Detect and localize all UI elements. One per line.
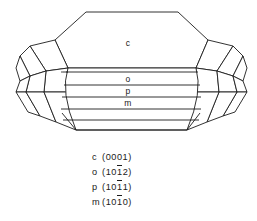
right-facet-mid-1 xyxy=(196,68,219,92)
legend-entry-m: m(1010) xyxy=(92,195,132,209)
legend-symbol-m: m xyxy=(92,195,102,209)
overbar-digit-m: 1 xyxy=(117,195,123,209)
face-label-p: p xyxy=(126,86,131,96)
legend-entry-o: o(1012) xyxy=(92,165,132,179)
legend-index-p: (1011) xyxy=(102,180,132,194)
legend-index-c: (0001) xyxy=(102,150,132,164)
overbar-digit-o: 1 xyxy=(117,165,123,179)
legend-symbol-c: c xyxy=(92,150,102,164)
overbar-digit-p: 1 xyxy=(117,180,123,194)
legend-symbol-o: o xyxy=(92,165,102,179)
front-prism-face xyxy=(65,68,198,130)
miller-index-legend: c(0001) o(1012) p(1011) m(1010) xyxy=(0,148,257,221)
legend-symbol-p: p xyxy=(92,180,102,194)
basal-face-c xyxy=(55,12,208,68)
crystal-figure: c o p m c(0001) o(1012) p(1011) m(1010) xyxy=(0,0,257,221)
face-label-o: o xyxy=(126,74,131,84)
legend-index-o: (1012) xyxy=(102,165,132,179)
legend-entry-c: c(0001) xyxy=(92,150,132,164)
legend-index-m: (1010) xyxy=(102,195,132,209)
face-label-c: c xyxy=(126,38,131,48)
legend-entry-p: p(1011) xyxy=(92,180,132,194)
crystal-drawing: c o p m xyxy=(0,0,257,150)
face-label-m: m xyxy=(124,98,131,108)
